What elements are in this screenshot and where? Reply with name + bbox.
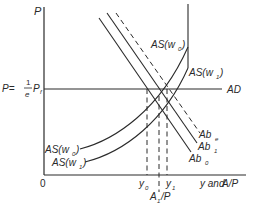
y-axis-label: P — [34, 5, 42, 17]
as-ad-diagram: P 0 y and A/P P= 1 e P f AD AS(w 0 ) AS(… — [0, 0, 265, 205]
price-level-lhs: P= — [2, 83, 15, 94]
svg-text:AS(w: AS(w — [188, 67, 214, 78]
x-axis-label-ap: A/P — [221, 178, 238, 189]
svg-text:): ) — [219, 67, 223, 78]
svg-text:): ) — [82, 157, 86, 168]
origin-label: 0 — [40, 178, 46, 189]
price-level-denominator: e — [25, 90, 30, 99]
y1-label: y 1 — [165, 178, 175, 191]
svg-text:Ab: Ab — [188, 153, 202, 164]
svg-text:AS(w: AS(w — [44, 144, 70, 155]
svg-text:A: A — [149, 191, 157, 202]
svg-text:Ab: Ab — [197, 141, 211, 152]
ab0-label: Ab 0 — [188, 153, 209, 166]
svg-text:/P: /P — [160, 191, 171, 202]
svg-text:1: 1 — [172, 185, 175, 191]
price-level-label: P= 1 e P f — [2, 78, 43, 99]
svg-text:Ab: Ab — [198, 129, 212, 140]
svg-text:1: 1 — [216, 74, 219, 80]
as-w1-curve — [85, 68, 188, 162]
svg-text:y: y — [165, 178, 172, 189]
as-w0-upper-label: AS(w 0 ) — [150, 39, 185, 52]
svg-text:0: 0 — [205, 160, 209, 166]
svg-text:1: 1 — [214, 148, 217, 154]
svg-text:e: e — [215, 136, 219, 142]
svg-text:): ) — [181, 39, 185, 50]
svg-text:0: 0 — [145, 185, 149, 191]
a1p-label: A 1 /P — [149, 191, 171, 204]
as-w1-upper-label: AS(w 1 ) — [188, 67, 223, 80]
diagram-canvas: P 0 y and A/P P= 1 e P f AD AS(w 0 ) AS(… — [0, 0, 265, 205]
svg-text:AS(w: AS(w — [51, 157, 77, 168]
as-w1-lower-label: AS(w 1 ) — [51, 157, 86, 170]
y0-label: y 0 — [138, 178, 149, 191]
svg-text:1: 1 — [157, 198, 160, 204]
svg-text:): ) — [75, 144, 79, 155]
ad-label: AD — [226, 84, 241, 95]
price-level-rhs-sub: f — [40, 89, 43, 95]
ab0-curve — [99, 18, 191, 152]
as-w0-lower-label: AS(w 0 ) — [44, 144, 79, 157]
svg-text:y: y — [138, 178, 145, 189]
svg-text:AS(w: AS(w — [150, 39, 176, 50]
svg-text:1: 1 — [79, 164, 82, 170]
price-level-rhs: P — [33, 83, 40, 94]
price-level-numerator: 1 — [26, 78, 31, 87]
